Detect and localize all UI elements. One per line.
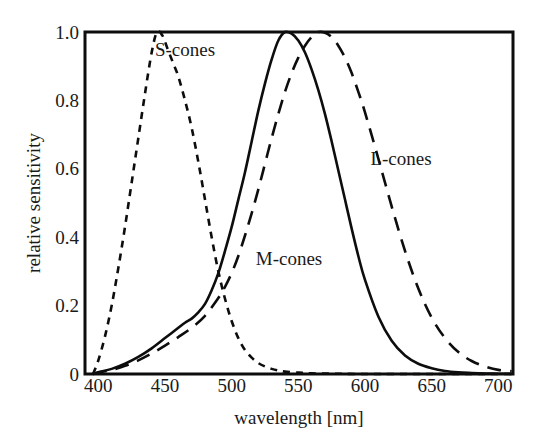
figure-root: 400450500550600650700 00.20.40.60.81.0 S… <box>0 0 543 438</box>
x-tick-450: 450 <box>151 375 180 396</box>
x-axis-title: wavelength [nm] <box>234 407 363 428</box>
y-tick-0-6: 0.6 <box>55 158 79 179</box>
x-tick-600: 600 <box>351 375 380 396</box>
y-tick-0-4: 0.4 <box>55 227 79 248</box>
y-tick-0: 0 <box>70 364 80 385</box>
y-tick-0-2: 0.2 <box>55 295 79 316</box>
cone-sensitivity-chart: 400450500550600650700 00.20.40.60.81.0 S… <box>0 0 543 438</box>
x-tick-400: 400 <box>84 375 113 396</box>
annotation-s-cones: S-cones <box>155 39 215 60</box>
y-axis-title: relative sensitivity <box>23 133 44 273</box>
y-tick-0-8: 0.8 <box>55 90 79 111</box>
x-tick-650: 650 <box>417 375 446 396</box>
x-tick-700: 700 <box>484 375 513 396</box>
y-tick-1-0: 1.0 <box>55 22 79 43</box>
x-tick-500: 500 <box>217 375 246 396</box>
annotation-m-cones: M-cones <box>256 248 322 269</box>
annotation-l-cones: L-cones <box>370 148 431 169</box>
x-tick-550: 550 <box>284 375 313 396</box>
